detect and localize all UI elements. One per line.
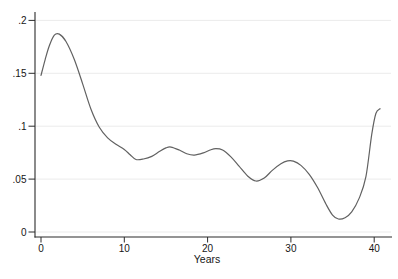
density-plot-figure: 0.05.1.15.2010203040 Years xyxy=(0,0,398,279)
x-tick-label: 40 xyxy=(369,243,381,254)
x-tick-label: 0 xyxy=(38,243,44,254)
y-tick-label: .15 xyxy=(13,68,27,79)
chart-canvas: 0.05.1.15.2010203040 Years xyxy=(0,0,398,279)
y-tick-label: 0 xyxy=(21,227,27,238)
y-tick-label: .2 xyxy=(18,15,27,26)
x-tick-label: 10 xyxy=(119,243,131,254)
axes-group xyxy=(35,12,393,238)
x-tick-label: 30 xyxy=(285,243,297,254)
ticks-group xyxy=(29,20,375,242)
x-axis-title: Years xyxy=(194,253,220,265)
tick-labels-group: 0.05.1.15.2010203040 xyxy=(13,15,381,254)
gridlines-group xyxy=(36,20,392,232)
y-tick-label: .05 xyxy=(13,174,27,185)
y-tick-label: .1 xyxy=(18,121,27,132)
